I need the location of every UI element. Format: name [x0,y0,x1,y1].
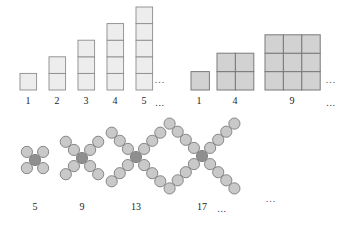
figure-canvas: 1 2 3 4 5 ... ... 1 4 9 ... ... 5 9 13 1… [0,0,345,225]
center-circle [29,154,40,165]
row3-label-13: 13 [131,201,141,212]
row2-label-9: 9 [290,95,295,106]
row3-label-17: 17 [197,201,207,212]
x-cross-17 [164,118,240,194]
x-cross-9 [60,136,104,180]
row2-label-ellipsis: ... [326,97,335,108]
x-cross-13 [106,127,166,187]
row2-label-4: 4 [233,95,238,106]
row1-label-ellipsis: ... [155,97,164,108]
row1-label-3: 3 [84,95,89,106]
row3-label-5: 5 [33,201,38,212]
row3-label-9: 9 [80,201,85,212]
row3-figure-ellipsis: ... [266,193,277,204]
row1-label-5: 5 [142,95,147,106]
row1-label-1: 1 [26,95,31,106]
center-circle [130,151,141,162]
center-circle [76,152,87,163]
row1-figure-ellipsis: ... [155,74,166,85]
center-circle [196,150,207,161]
row1-label-4: 4 [113,95,118,106]
row3-label-ellipsis: ... [217,203,226,214]
row1-label-2: 2 [55,95,60,106]
row2-label-1: 1 [197,95,202,106]
x-cross-5 [21,146,48,173]
pattern-x-crosses [0,0,345,225]
row2-figure-ellipsis: ... [326,74,337,85]
